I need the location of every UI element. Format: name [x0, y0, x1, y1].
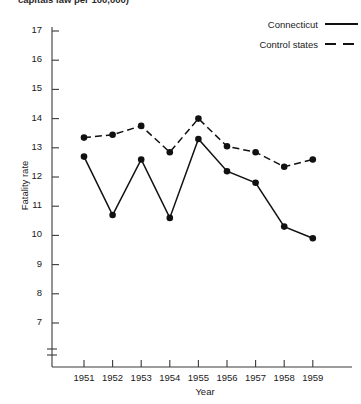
data-point	[310, 235, 317, 242]
data-point	[81, 134, 88, 141]
y-tick-label: 16	[20, 53, 42, 64]
series-line-connecticut	[84, 139, 313, 238]
y-tick-label: 13	[20, 141, 42, 152]
data-point	[167, 149, 174, 156]
y-tick-label: 15	[20, 82, 42, 93]
data-point	[281, 223, 288, 230]
data-point	[224, 168, 231, 175]
data-point	[281, 164, 288, 171]
data-point	[224, 143, 231, 150]
y-tick-label: 7	[20, 316, 42, 327]
plot-area	[0, 0, 361, 404]
y-tick-label: 9	[20, 258, 42, 269]
y-tick-label: 11	[20, 199, 42, 210]
y-tick-label: 14	[20, 112, 42, 123]
data-point	[109, 212, 116, 219]
data-point	[109, 131, 116, 138]
y-tick-label: 10	[20, 228, 42, 239]
data-point	[138, 123, 145, 130]
data-point	[310, 156, 317, 163]
data-point	[138, 156, 145, 163]
y-tick-label: 8	[20, 287, 42, 298]
x-tick-label: 1959	[293, 372, 333, 383]
data-point	[252, 180, 259, 187]
chart-figure: capitals law per 100,000) Connecticut Co…	[0, 0, 361, 404]
data-point	[167, 215, 174, 222]
data-point	[195, 115, 202, 122]
data-point	[195, 136, 202, 143]
series-line-control-states	[84, 119, 313, 167]
data-point	[252, 149, 259, 156]
y-tick-label: 12	[20, 170, 42, 181]
data-point	[81, 153, 88, 160]
y-tick-label: 17	[20, 24, 42, 35]
